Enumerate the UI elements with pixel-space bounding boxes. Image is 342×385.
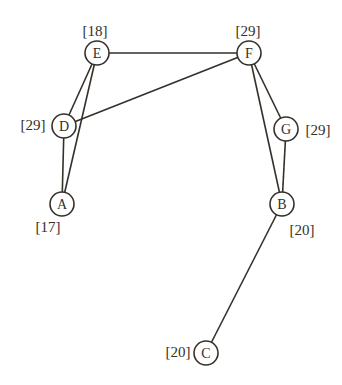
graph-canvas: E[18]F[29]D[29]G[29]A[17]B[20]C[20] [0, 0, 342, 385]
node-letter-E: E [93, 46, 102, 61]
node-value-label-A: [17] [36, 219, 61, 235]
node-value-label-C: [20] [166, 344, 191, 360]
node-letter-B: B [277, 197, 286, 212]
node-letter-A: A [57, 197, 68, 212]
node-value-label-G: [29] [306, 122, 331, 138]
edge-B-C [206, 204, 282, 353]
node-letter-G: G [281, 122, 291, 137]
node-value-label-B: [20] [290, 222, 315, 238]
node-value-label-D: [29] [21, 117, 46, 133]
graph-diagram: E[18]F[29]D[29]G[29]A[17]B[20]C[20] [0, 0, 342, 385]
node-value-label-E: [18] [83, 23, 108, 39]
node-letter-F: F [245, 46, 253, 61]
node-value-label-F: [29] [236, 23, 261, 39]
node-letter-C: C [201, 346, 210, 361]
node-letter-D: D [59, 119, 69, 134]
